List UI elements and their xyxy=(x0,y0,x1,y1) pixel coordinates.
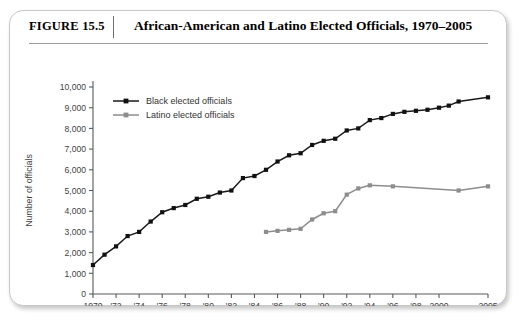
y-axis-tick-label: 3,000 xyxy=(64,227,86,237)
header-rule xyxy=(29,43,488,44)
legend-label: Latino elected officials xyxy=(146,110,235,120)
data-point xyxy=(275,229,279,233)
x-axis-tick-label: 2000 xyxy=(429,301,448,306)
data-point xyxy=(322,139,326,143)
data-point xyxy=(379,116,383,120)
x-axis-tick-label: '88 xyxy=(295,301,306,306)
y-axis-tick-label: 2,000 xyxy=(64,248,86,258)
x-axis-tick-label: '78 xyxy=(180,301,191,306)
data-point xyxy=(457,99,461,103)
data-point xyxy=(275,159,279,163)
x-axis-tick-label: '86 xyxy=(272,301,283,306)
header-divider xyxy=(113,16,114,38)
data-point xyxy=(414,109,418,113)
x-axis-tick-label: '82 xyxy=(226,301,237,306)
data-point xyxy=(402,110,406,114)
y-axis-tick-label: 9,000 xyxy=(64,103,86,113)
x-axis-tick-label: '74 xyxy=(134,301,145,306)
data-point xyxy=(310,217,314,221)
figure-header: FIGURE 15.5 African-American and Latino … xyxy=(10,11,506,45)
data-point xyxy=(368,118,372,122)
line-chart: 01,0002,0003,0004,0005,0006,0007,0008,00… xyxy=(10,45,508,306)
y-axis-tick-label: 7,000 xyxy=(64,144,86,154)
y-axis-tick-label: 10,000 xyxy=(60,82,87,92)
data-point xyxy=(183,203,187,207)
x-axis-tick-label: 2005 xyxy=(478,301,497,306)
y-axis-title: Number of officials xyxy=(24,154,34,227)
x-axis-tick-label: '90 xyxy=(318,301,329,306)
data-point xyxy=(437,106,441,110)
data-point xyxy=(457,188,461,192)
series-line-latino-officials xyxy=(266,185,488,232)
data-point xyxy=(149,219,153,223)
y-axis-tick-label: 0 xyxy=(81,289,86,299)
data-point xyxy=(137,230,141,234)
legend-marker xyxy=(124,99,129,104)
y-axis-tick-label: 6,000 xyxy=(64,165,86,175)
y-axis-tick-label: 5,000 xyxy=(64,186,86,196)
x-axis-tick-label: '84 xyxy=(249,301,260,306)
data-point xyxy=(241,176,245,180)
figure-number-label: FIGURE 15.5 xyxy=(29,19,105,34)
x-axis-tick-label: '92 xyxy=(341,301,352,306)
x-axis-tick-label: '76 xyxy=(157,301,168,306)
data-point xyxy=(91,263,95,267)
data-point xyxy=(345,128,349,132)
data-point xyxy=(322,211,326,215)
legend-label: Black elected officials xyxy=(146,96,232,106)
data-point xyxy=(252,174,256,178)
x-axis-tick-label: '96 xyxy=(387,301,398,306)
data-point xyxy=(333,209,337,213)
data-point xyxy=(447,104,451,108)
data-point xyxy=(172,206,176,210)
data-point xyxy=(391,112,395,116)
data-point xyxy=(345,193,349,197)
data-point xyxy=(287,228,291,232)
data-point xyxy=(299,227,303,231)
x-axis-tick-label: '72 xyxy=(110,301,121,306)
data-point xyxy=(126,234,130,238)
data-point xyxy=(356,126,360,130)
data-point xyxy=(229,188,233,192)
x-axis-tick-label: '80 xyxy=(203,301,214,306)
x-axis-tick-label: '98 xyxy=(410,301,421,306)
data-point xyxy=(287,153,291,157)
data-point xyxy=(333,137,337,141)
data-point xyxy=(391,184,395,188)
data-point xyxy=(195,197,199,201)
x-axis-tick-label: '94 xyxy=(364,301,375,306)
series-line-black-officials xyxy=(93,97,488,265)
data-point xyxy=(356,186,360,190)
data-point xyxy=(310,143,314,147)
data-point xyxy=(114,244,118,248)
data-point xyxy=(102,253,106,257)
data-point xyxy=(206,195,210,199)
data-point xyxy=(368,183,372,187)
chart-plot-area: 01,0002,0003,0004,0005,0006,0007,0008,00… xyxy=(10,45,508,306)
data-point xyxy=(218,190,222,194)
y-axis-tick-label: 8,000 xyxy=(64,124,86,134)
data-point xyxy=(425,108,429,112)
data-point xyxy=(264,168,268,172)
data-point xyxy=(160,210,164,214)
y-axis-tick-label: 1,000 xyxy=(64,269,86,279)
y-axis-tick-label: 4,000 xyxy=(64,206,86,216)
x-axis-tick-label: 1970 xyxy=(83,301,102,306)
data-point xyxy=(486,95,490,99)
data-point xyxy=(299,151,303,155)
data-point xyxy=(486,184,490,188)
legend-marker xyxy=(124,113,129,118)
figure-title: African-American and Latino Elected Offi… xyxy=(134,18,472,34)
data-point xyxy=(264,230,268,234)
figure-card: FIGURE 15.5 African-American and Latino … xyxy=(9,10,507,306)
